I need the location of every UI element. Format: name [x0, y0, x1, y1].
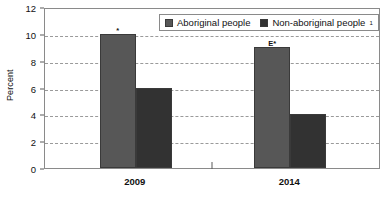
bar[interactable]: [290, 114, 326, 168]
x-tick-label: 2014: [279, 176, 300, 187]
legend-item[interactable]: Non-aboriginal people1: [260, 17, 372, 28]
plot-area: *E*: [44, 8, 380, 169]
y-tick-label: 4: [31, 110, 36, 121]
y-tick-label: 2: [31, 137, 36, 148]
y-tick-label: 6: [31, 83, 36, 94]
chart-legend: Aboriginal peopleNon-aboriginal people1: [159, 14, 379, 31]
bar[interactable]: [100, 34, 136, 168]
bar[interactable]: [254, 47, 290, 168]
y-tick-label: 10: [25, 29, 36, 40]
bars-layer: *E*: [45, 9, 379, 168]
y-axis-tick-labels: 024681012: [16, 8, 40, 169]
bar-chart: Percent 024681012 *E* Aboriginal peopleN…: [0, 0, 389, 202]
y-tick-label: 0: [31, 164, 36, 175]
x-axis-tick-labels: 20092014: [44, 170, 380, 190]
legend-label: Non-aboriginal people: [272, 17, 365, 28]
bar[interactable]: [136, 88, 172, 169]
y-tick-label: 12: [25, 3, 36, 14]
x-tick-label: 2009: [124, 176, 145, 187]
legend-swatch-icon: [260, 19, 268, 27]
legend-item[interactable]: Aboriginal people: [165, 17, 250, 28]
y-tick-label: 8: [31, 56, 36, 67]
x-axis-separator-tick: [212, 162, 213, 169]
bar-annotation: E*: [268, 40, 276, 48]
legend-label: Aboriginal people: [177, 17, 250, 28]
legend-swatch-icon: [165, 19, 173, 27]
bar-annotation: *: [116, 26, 119, 34]
